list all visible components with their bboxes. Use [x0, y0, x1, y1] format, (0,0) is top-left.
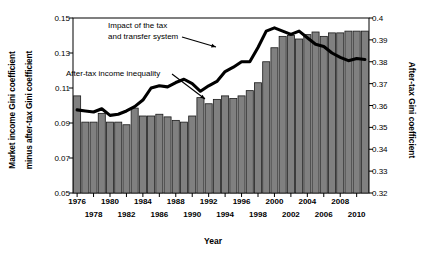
- bar-1987: [164, 117, 171, 193]
- bar-2000: [271, 48, 278, 193]
- bar-2002: [287, 36, 294, 194]
- bar-1985: [148, 116, 155, 193]
- impact-annotation-line2: and transfer system: [108, 31, 178, 42]
- bar-2005: [312, 32, 319, 193]
- bar-1997: [246, 91, 253, 193]
- bar-1983: [131, 108, 138, 193]
- bar-1979: [98, 113, 105, 193]
- bar-1993: [213, 99, 220, 193]
- bar-1995: [230, 99, 237, 194]
- after-tax-annotation: After-tax income inequality: [66, 68, 160, 79]
- impact-annotation-line1: Impact of the tax: [108, 20, 178, 31]
- bar-1978: [90, 122, 97, 193]
- bar-1977: [82, 122, 89, 193]
- bar-1982: [123, 125, 130, 193]
- bar-1980: [106, 122, 113, 193]
- bar-2006: [320, 36, 327, 193]
- bar-2007: [328, 33, 335, 193]
- bar-1989: [180, 122, 187, 193]
- bar-2011: [361, 31, 368, 193]
- bar-1996: [238, 96, 245, 193]
- bar-1986: [156, 114, 163, 193]
- bar-2009: [345, 31, 352, 193]
- plot-area: [0, 0, 426, 261]
- bar-2010: [353, 31, 360, 193]
- bar-1999: [263, 62, 270, 193]
- bar-1990: [189, 116, 196, 193]
- chart-figure: Market income Gini coefficient minus aft…: [0, 0, 426, 261]
- bar-2001: [279, 36, 286, 193]
- bar-1981: [115, 122, 122, 193]
- bar-1984: [139, 116, 146, 193]
- bar-2004: [304, 35, 311, 193]
- bar-1988: [172, 120, 179, 193]
- bar-1991: [197, 98, 204, 193]
- impact-annotation: Impact of the tax and transfer system: [108, 20, 178, 42]
- bar-1992: [205, 104, 212, 193]
- x-axis-title: Year: [0, 236, 426, 246]
- bar-1998: [254, 83, 261, 193]
- bar-2003: [296, 39, 303, 193]
- after-tax-annotation-line1: After-tax income inequality: [66, 68, 160, 79]
- bar-1994: [222, 96, 229, 193]
